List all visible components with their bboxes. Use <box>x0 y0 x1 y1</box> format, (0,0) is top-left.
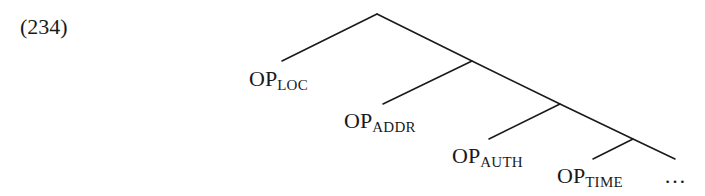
node-base: OP <box>344 108 372 133</box>
node-base: OP <box>557 163 585 188</box>
node-subscript: LOC <box>277 77 308 93</box>
node-op-addr: OPADDR <box>344 108 416 136</box>
node-subscript: AUTH <box>480 154 523 170</box>
node-subscript: ADDR <box>372 119 416 135</box>
node-op-auth: OPAUTH <box>452 143 523 171</box>
branch-loc <box>282 14 377 61</box>
node-base: OP <box>249 66 277 91</box>
node-op-time: OPTIME <box>557 163 623 191</box>
node-op-loc: OPLOC <box>249 66 308 94</box>
branch-time <box>593 139 633 159</box>
branch-auth <box>489 104 560 139</box>
node-base: OP <box>452 143 480 168</box>
tree-spine <box>377 14 675 159</box>
node-subscript: TIME <box>585 174 623 190</box>
branch-addr <box>383 61 472 104</box>
continuation-ellipsis: … <box>664 163 687 189</box>
